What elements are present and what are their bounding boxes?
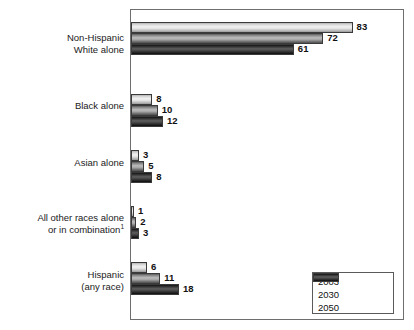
bar-value-label: 5 xyxy=(148,160,153,172)
bar-value-label: 18 xyxy=(183,283,194,295)
category-label-line1: Non-Hispanic xyxy=(0,32,124,44)
bar-2030 xyxy=(131,161,144,172)
category-label-line2-text: White alone xyxy=(74,44,124,55)
bar-value-label: 83 xyxy=(357,21,368,33)
bar-value-label: 3 xyxy=(143,227,148,239)
bar-2050 xyxy=(131,284,179,295)
bar-value-label: 12 xyxy=(167,115,178,127)
category-label: Hispanic(any race) xyxy=(0,269,124,292)
category-label-line1: Asian alone xyxy=(0,157,124,169)
category-label-line2-text: (any race) xyxy=(81,281,124,292)
category-label-line2: White alone xyxy=(0,44,124,56)
bar-2030 xyxy=(131,273,160,284)
legend-item: 2050 xyxy=(318,302,393,314)
category-label-line1: Hispanic xyxy=(0,269,124,281)
category-label: Asian alone xyxy=(0,157,124,169)
category-label: Non-HispanicWhite alone xyxy=(0,32,124,55)
bar-2050 xyxy=(131,44,294,55)
bar-value-label: 11 xyxy=(164,272,174,284)
footnote-marker: 1 xyxy=(120,222,124,229)
bar-2003 xyxy=(131,94,152,105)
bar-2003 xyxy=(131,262,147,273)
legend-item: 2030 xyxy=(318,289,393,301)
bar-2003 xyxy=(131,206,134,217)
category-label-line1: Black alone xyxy=(0,100,124,112)
bar-value-label: 61 xyxy=(298,43,309,55)
bar-2030 xyxy=(131,217,136,228)
bar-2050 xyxy=(131,116,163,127)
cut-off-title-remnant xyxy=(0,0,414,4)
legend-swatch xyxy=(313,273,339,282)
legend-label: 2030 xyxy=(318,290,339,300)
bar-value-label: 72 xyxy=(327,32,338,44)
legend-rows: 200320302050 xyxy=(318,276,393,314)
bar-2030 xyxy=(131,105,158,116)
bar-2050 xyxy=(131,228,139,239)
bar-2030 xyxy=(131,33,323,44)
bar-value-label: 8 xyxy=(156,171,161,183)
category-label-line1: All other races alone xyxy=(0,212,124,224)
category-label-line2: or in combination1 xyxy=(0,224,124,236)
bar-value-label: 6 xyxy=(151,261,156,273)
chart-screenshot: Non-HispanicWhite alone837261Black alone… xyxy=(0,0,414,330)
bar-2003 xyxy=(131,22,353,33)
category-label-line2-text: or in combination xyxy=(48,224,120,235)
category-label: Black alone xyxy=(0,100,124,112)
category-label: All other races aloneor in combination1 xyxy=(0,212,124,235)
category-label-line2: (any race) xyxy=(0,281,124,293)
bar-2003 xyxy=(131,150,139,161)
chart-legend: 200320302050 xyxy=(312,272,394,314)
bar-2050 xyxy=(131,172,152,183)
legend-label: 2050 xyxy=(318,303,339,313)
